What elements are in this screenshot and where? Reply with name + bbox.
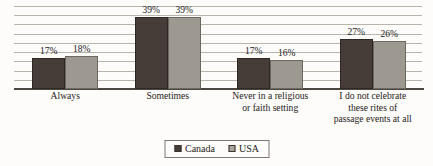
bar-canada[interactable] <box>32 58 65 89</box>
bar-wrapper: 27% <box>340 39 373 89</box>
category-label-line: Always <box>14 90 117 102</box>
bar-canada[interactable] <box>237 58 270 89</box>
category-label: I do not celebratethese rites ofpassage … <box>322 90 425 125</box>
bar-wrapper: 17% <box>237 58 270 89</box>
bar-usa[interactable] <box>65 56 98 89</box>
category-label-line: Sometimes <box>117 90 220 102</box>
category-label-line: these rites of <box>322 102 425 114</box>
bar-wrapper: 39% <box>135 17 168 89</box>
bar-value-label: 39% <box>142 5 160 15</box>
bar-value-label: 27% <box>347 27 365 37</box>
bar-wrapper: 18% <box>65 56 98 89</box>
bar-canada[interactable] <box>340 39 373 89</box>
bar-value-label: 39% <box>175 5 193 15</box>
bar-wrapper: 26% <box>373 41 406 89</box>
legend-label: Canada <box>185 143 215 154</box>
bar-usa[interactable] <box>168 17 201 89</box>
category-label: Always <box>14 90 117 102</box>
bar-value-label: 16% <box>278 48 296 58</box>
chart-legend: CanadaUSA <box>164 140 269 158</box>
legend-swatch-icon <box>174 145 181 152</box>
bar-chart: 17%18%39%39%17%16%27%26% AlwaysSometimes… <box>0 0 433 166</box>
category-label-line: or faith setting <box>219 102 322 114</box>
legend-entry-usa[interactable]: USA <box>228 143 259 154</box>
bar-wrapper: 16% <box>270 60 303 90</box>
bar-usa[interactable] <box>373 41 406 89</box>
bar-value-label: 18% <box>73 44 91 54</box>
bar-group: 17%18% <box>14 6 117 89</box>
category-label: Sometimes <box>117 90 220 102</box>
legend-label: USA <box>239 143 259 154</box>
bar-canada[interactable] <box>135 17 168 89</box>
category-label: Never in a religiousor faith setting <box>219 90 322 113</box>
bar-wrapper: 17% <box>32 58 65 89</box>
bar-value-label: 17% <box>40 46 58 56</box>
category-label-line: Never in a religious <box>219 90 322 102</box>
legend-swatch-icon <box>228 145 235 152</box>
bar-value-label: 26% <box>380 29 398 39</box>
legend-entry-canada[interactable]: Canada <box>174 143 215 154</box>
category-labels: AlwaysSometimesNever in a religiousor fa… <box>14 90 424 138</box>
bar-group: 39%39% <box>117 6 220 89</box>
bars-layer: 17%18%39%39%17%16%27%26% <box>14 6 424 89</box>
category-label-line: passage events at all <box>322 113 425 125</box>
bar-usa[interactable] <box>270 60 303 90</box>
bar-wrapper: 39% <box>168 17 201 89</box>
bar-group: 27%26% <box>322 6 425 89</box>
category-label-line: I do not celebrate <box>322 90 425 102</box>
bar-group: 17%16% <box>219 6 322 89</box>
bar-value-label: 17% <box>245 46 263 56</box>
